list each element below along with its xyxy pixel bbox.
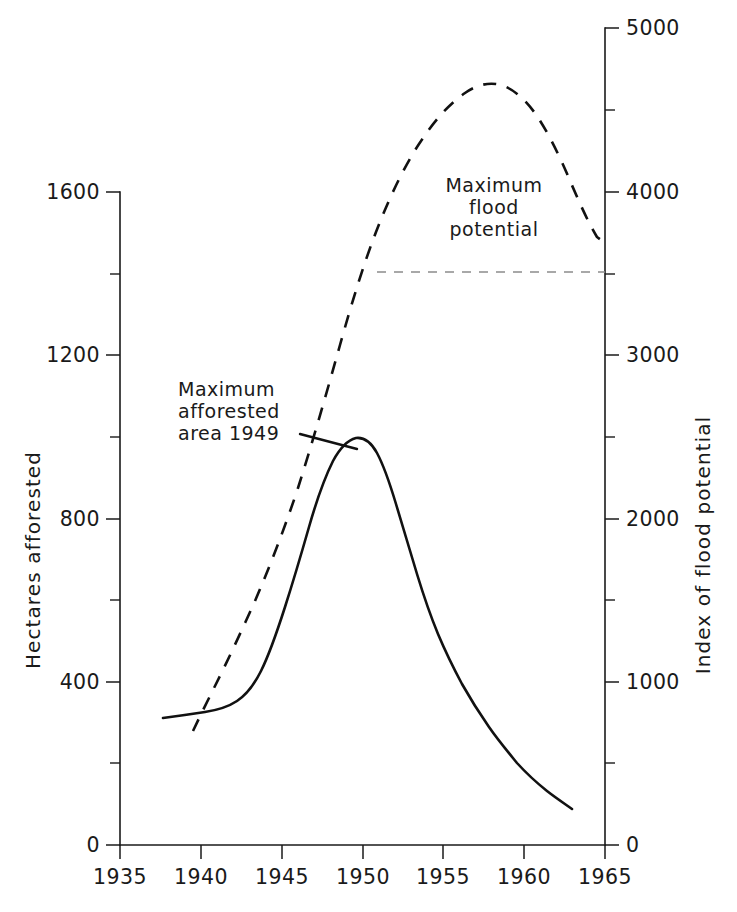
left-tick-label-800: 800: [60, 507, 100, 531]
x-tick-label-1960: 1960: [497, 865, 551, 889]
left-axis-ticks: [106, 192, 120, 845]
left-tick-label-1200: 1200: [46, 343, 100, 367]
left-tick-label-400: 400: [60, 670, 100, 694]
flood-annotation-line-1: Maximum: [445, 174, 542, 196]
flood-annotation-line-2: flood: [469, 196, 519, 218]
afforested-annotation-line-1: Maximum: [178, 378, 275, 400]
chart-svg: 0 400 800 1200 1600 0 1000 2000 3000: [0, 0, 737, 912]
x-tick-label-1935: 1935: [93, 865, 147, 889]
chart-figure: 0 400 800 1200 1600 0 1000 2000 3000: [0, 0, 737, 912]
right-axis-ticks: [605, 28, 619, 845]
left-axis-tick-labels: 0 400 800 1200 1600: [46, 180, 100, 857]
right-tick-label-2000: 2000: [626, 507, 680, 531]
right-tick-label-5000: 5000: [626, 16, 680, 40]
left-tick-label-1600: 1600: [46, 180, 100, 204]
x-tick-label-1965: 1965: [578, 865, 632, 889]
right-tick-label-1000: 1000: [626, 670, 680, 694]
series-hectares-afforested: [163, 438, 572, 809]
right-tick-label-3000: 3000: [626, 343, 680, 367]
maximum-flood-potential-annotation: Maximum flood potential: [445, 174, 542, 240]
x-tick-label-1955: 1955: [416, 865, 470, 889]
x-tick-label-1940: 1940: [174, 865, 228, 889]
right-axis-title: Index of flood potential: [691, 416, 715, 675]
right-tick-label-0: 0: [626, 833, 639, 857]
right-axis-tick-labels: 0 1000 2000 3000 4000 5000: [626, 16, 680, 857]
x-tick-label-1950: 1950: [336, 865, 390, 889]
right-tick-label-4000: 4000: [626, 180, 680, 204]
x-tick-label-1945: 1945: [255, 865, 309, 889]
afforested-annotation-line-2: afforested: [178, 400, 280, 422]
left-tick-label-0: 0: [87, 833, 100, 857]
flood-annotation-line-3: potential: [449, 218, 538, 240]
afforested-annotation-line-3: area 1949: [178, 422, 279, 444]
x-axis-tick-labels: 1935 1940 1945 1950 1955 1960 1965: [93, 865, 632, 889]
maximum-afforested-area-annotation: Maximum afforested area 1949: [178, 378, 280, 444]
left-axis-title: Hectares afforested: [21, 451, 45, 669]
x-axis-ticks: [120, 845, 605, 859]
